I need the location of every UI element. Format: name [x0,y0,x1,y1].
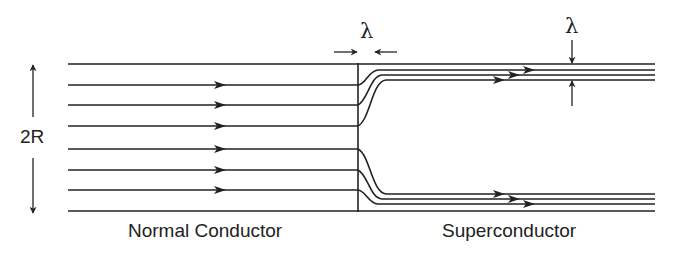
current-direction-arrows [214,66,535,208]
normal-conductor-label: Normal Conductor [128,220,282,242]
width-dimension-label: 2R [20,126,44,148]
super-top-current-lines [358,70,655,126]
superconductor-label: Superconductor [442,220,576,242]
super-bottom-current-lines [358,149,655,204]
lambda-horizontal-label: λ [360,19,373,43]
normal-current-lines [68,85,358,190]
current-distribution-diagram [0,0,675,254]
lambda-vertical-label: λ [565,14,578,38]
